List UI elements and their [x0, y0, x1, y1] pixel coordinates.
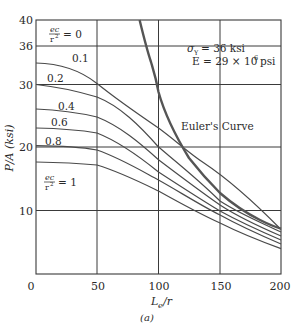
- x-tick-labels: 0 50 100 150 200: [28, 280, 291, 293]
- y-tick-36: 36: [19, 40, 33, 53]
- euler-curve-label: Euler's Curve: [181, 120, 254, 132]
- ec-one-label: ec r 2 = 1: [44, 173, 77, 192]
- x-tick-100: 100: [149, 280, 170, 293]
- y-tick-30: 30: [19, 79, 33, 92]
- y-tick-10: 10: [19, 205, 33, 218]
- ec-zero-denominator: r: [50, 35, 54, 44]
- curve-label-0.4: 0.4: [58, 100, 75, 112]
- y-tick-40: 40: [19, 14, 33, 27]
- x-tick-0: 0: [28, 280, 35, 293]
- elastic-modulus-exponent: 6: [254, 54, 258, 62]
- x-tick-50: 50: [91, 280, 105, 293]
- x-axis-title-tail: /r: [162, 295, 173, 308]
- ec-one-value: = 1: [58, 176, 77, 188]
- ec-one-denominator: r: [45, 183, 49, 192]
- ec-zero-value: = 0: [63, 28, 82, 40]
- x-axis-title: L e /r: [150, 295, 173, 310]
- y-tick-labels: 40 36 30 20 10: [19, 14, 33, 218]
- ec-zero-exponent: 2: [55, 33, 59, 39]
- y-axis-title: P/A (ksi): [3, 125, 16, 173]
- curve-label-0.6: 0.6: [51, 116, 68, 128]
- elastic-modulus-unit: psi: [260, 55, 276, 67]
- column-strength-chart: 40 36 30 20 10 0 50 100 150 200 P/A (ksi…: [0, 0, 292, 333]
- x-tick-200: 200: [270, 280, 291, 293]
- ec-one-exponent: 2: [50, 181, 54, 187]
- figure-caption: (a): [140, 312, 154, 323]
- curve-label-0.1: 0.1: [72, 52, 89, 64]
- curve-label-0.8: 0.8: [45, 135, 62, 147]
- ec-zero-label: ec r 2 = 0: [49, 25, 82, 44]
- x-tick-150: 150: [211, 280, 232, 293]
- y-tick-20: 20: [19, 141, 33, 154]
- elastic-modulus-value: E = 29 × 10: [192, 55, 257, 67]
- yield-stress-value: = 36 ksi: [201, 42, 246, 54]
- curve-label-0.2: 0.2: [47, 72, 64, 84]
